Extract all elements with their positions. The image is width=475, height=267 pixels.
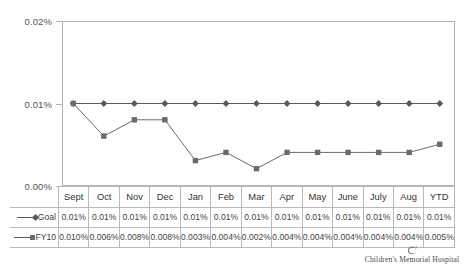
table-cell: 0.003% — [180, 228, 210, 248]
legend-label: FY10 — [34, 228, 56, 247]
series-fy10 — [71, 101, 443, 172]
table-row: Goal0.01%0.01%0.01%0.01%0.01%0.01%0.01%0… — [10, 208, 455, 228]
data-point-marker-diamond — [284, 100, 291, 107]
series-goal — [70, 100, 443, 107]
table-cell: 0.006% — [89, 228, 119, 248]
table-column-header: Apr — [272, 187, 302, 208]
data-point-marker-square — [162, 117, 167, 122]
table-cell: 0.008% — [150, 228, 180, 248]
data-point-marker-diamond — [314, 100, 321, 107]
table-cell: 0.01% — [302, 208, 332, 228]
y-axis-tick-label: 0.02% — [0, 16, 52, 27]
y-axis-tick-label: 0.01% — [0, 99, 52, 110]
legend-line — [14, 237, 31, 238]
table-cell: 0.004% — [302, 228, 332, 248]
table-cell: 0.01% — [393, 208, 423, 228]
table-cell: 0.01% — [363, 208, 393, 228]
data-point-marker-square — [101, 133, 106, 138]
table-cell: 0.008% — [119, 228, 149, 248]
table-column-header: Oct — [89, 187, 119, 208]
chart-screenshot: 0.02% 0.01% 0.00% SeptOctNovDecJanFebMar… — [0, 0, 475, 267]
table-cell: 0.01% — [272, 208, 302, 228]
table-cell: 0.01% — [333, 208, 363, 228]
table-column-header: Feb — [211, 187, 241, 208]
legend-key-goal: Goal — [10, 208, 59, 228]
legend-key-fy10: FY10 — [10, 228, 59, 248]
data-point-marker-square — [71, 101, 76, 106]
table-column-header: YTD — [424, 187, 455, 208]
data-point-marker-square — [406, 150, 411, 155]
data-point-marker-diamond — [100, 100, 107, 107]
data-table: SeptOctNovDecJanFebMarAprMayJuneJulyAugY… — [10, 186, 455, 248]
legend-marker-square — [30, 235, 35, 240]
table-column-header: Dec — [150, 187, 180, 208]
data-point-marker-square — [437, 142, 442, 147]
plot-area — [62, 21, 455, 186]
table-column-header: July — [363, 187, 393, 208]
table-column-header: June — [333, 187, 363, 208]
data-point-marker-diamond — [406, 100, 413, 107]
table-cell: 0.002% — [241, 228, 271, 248]
data-point-marker-square — [376, 150, 381, 155]
table-column-header: May — [302, 187, 332, 208]
data-point-marker-square — [223, 150, 228, 155]
table-column-header: Sept — [59, 187, 89, 208]
table-cell: 0.01% — [150, 208, 180, 228]
table-cell: 0.004% — [211, 228, 241, 248]
data-point-marker-square — [345, 150, 350, 155]
table-cell: 0.010% — [59, 228, 89, 248]
table-cell: 0.004% — [272, 228, 302, 248]
data-point-marker-square — [254, 166, 259, 171]
data-point-marker-diamond — [375, 100, 382, 107]
table-cell: 0.01% — [211, 208, 241, 228]
data-point-marker-square — [315, 150, 320, 155]
table-column-header: Jan — [180, 187, 210, 208]
data-point-marker-square — [284, 150, 289, 155]
legend-label: Goal — [37, 208, 56, 227]
data-point-marker-diamond — [436, 100, 443, 107]
table-cell: 0.01% — [89, 208, 119, 228]
table-column-header: Nov — [119, 187, 149, 208]
data-point-marker-diamond — [131, 100, 138, 107]
data-point-marker-diamond — [223, 100, 230, 107]
table-cell: 0.01% — [119, 208, 149, 228]
table-corner-cell — [10, 187, 59, 208]
data-point-marker-diamond — [253, 100, 260, 107]
logo-text: Children's Memorial Hospital — [352, 255, 472, 264]
data-point-marker-diamond — [161, 100, 168, 107]
series-layer — [63, 22, 454, 185]
table-cell: 0.01% — [180, 208, 210, 228]
data-point-marker-square — [132, 117, 137, 122]
data-point-marker-square — [193, 158, 198, 163]
data-point-marker-diamond — [345, 100, 352, 107]
hospital-logo: Children's Memorial Hospital — [352, 245, 472, 264]
table-header-row: SeptOctNovDecJanFebMarAprMayJuneJulyAugY… — [10, 187, 455, 208]
table-cell: 0.01% — [241, 208, 271, 228]
table-column-header: Aug — [393, 187, 423, 208]
table-cell: 0.01% — [424, 208, 455, 228]
data-point-marker-diamond — [192, 100, 199, 107]
series-line — [73, 104, 439, 169]
table-column-header: Mar — [241, 187, 271, 208]
table-cell: 0.01% — [59, 208, 89, 228]
